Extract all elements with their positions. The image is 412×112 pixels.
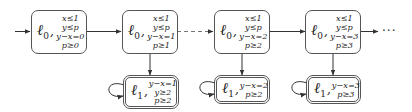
state-top-2: ℓ0, x≤1 y≤p y−x=2 p≥2 xyxy=(214,10,270,54)
constraint-list: x≤1 y≤p y−x=0 p≥0 xyxy=(55,14,86,49)
state-top-3: ℓ0, x≤1 y≤p y−x=3 p≥3 xyxy=(305,10,361,54)
state-bottom-0: ℓ1, y−x=1 y≥2 p≥2 xyxy=(123,75,179,109)
location-label: ℓ0, xyxy=(32,23,54,41)
constraint-list: y−x=2 p≥2 xyxy=(240,81,268,99)
location-label: ℓ1, xyxy=(309,81,331,99)
location-label: ℓ1, xyxy=(126,83,148,101)
constraint-list: x≤1 y≤p y−x=2 p≥2 xyxy=(238,14,269,49)
constraint-list: x≤1 y≤p y−x=3 p≥3 xyxy=(329,14,360,49)
location-label: ℓ0, xyxy=(123,23,145,41)
constraint: p≥3 xyxy=(337,90,354,99)
continuation-ellipsis: ··· xyxy=(382,24,396,38)
location-label: ℓ0, xyxy=(215,23,237,41)
constraint: p≥2 xyxy=(154,96,171,105)
constraint-list: y−x=1 y≥2 p≥2 xyxy=(149,79,177,105)
constraint: p≥1 xyxy=(153,41,170,50)
constraint-list: x≤1 y≤p y−x=1 p≥1 xyxy=(146,14,177,49)
location-label: ℓ1, xyxy=(217,81,239,99)
location-label: ℓ0, xyxy=(306,23,328,41)
constraint-list: y−x=3 p≥3 xyxy=(332,81,360,99)
constraint: p≥3 xyxy=(336,41,353,50)
state-bottom-1: ℓ1, y−x=2 p≥2 xyxy=(214,75,270,104)
self-loop-bottom0 xyxy=(109,84,124,97)
constraint: p≥2 xyxy=(245,90,262,99)
state-bottom-2: ℓ1, y−x=3 p≥3 xyxy=(306,75,361,104)
self-loop-bottom2 xyxy=(292,82,307,95)
state-top-1: ℓ0, x≤1 y≤p y−x=1 p≥1 xyxy=(122,10,178,54)
constraint: p≥0 xyxy=(62,41,79,50)
self-loop-bottom1 xyxy=(200,82,215,95)
state-top-0: ℓ0, x≤1 y≤p y−x=0 p≥0 xyxy=(31,10,87,54)
constraint: p≥2 xyxy=(245,41,262,50)
